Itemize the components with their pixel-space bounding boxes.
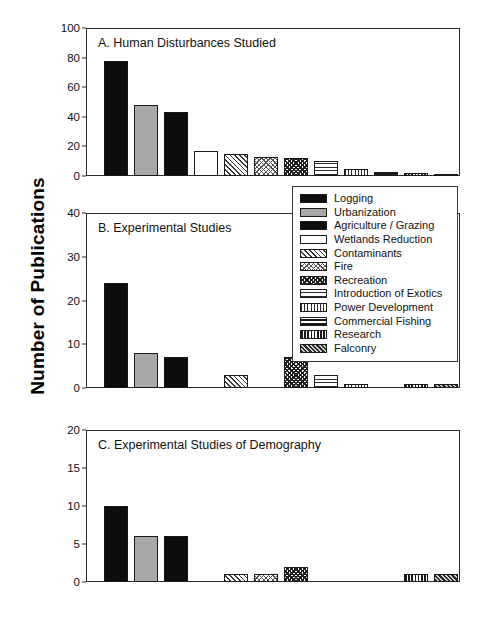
legend-swatch-icon <box>300 303 327 312</box>
legend-item: Falconry <box>300 342 451 356</box>
bar-agriculture-grazing <box>164 112 188 176</box>
bar-falconry <box>434 384 458 388</box>
bar-agriculture-grazing <box>164 357 188 388</box>
bar-introduction-of-exotics <box>314 161 338 176</box>
bar-contaminants <box>224 154 248 176</box>
legend-item: Agriculture / Grazing <box>300 219 451 233</box>
legend-swatch-icon <box>300 330 327 339</box>
legend-item: Power Development <box>300 301 451 315</box>
legend-item-label: Contaminants <box>334 248 402 259</box>
panel-a-bars <box>86 28 460 176</box>
legend-swatch-icon <box>300 208 327 217</box>
legend-item-label: Wetlands Reduction <box>334 234 432 245</box>
legend-item: Introduction of Exotics <box>300 287 451 301</box>
legend-swatch-icon <box>300 249 327 258</box>
bar-commercial-fishing <box>374 172 398 176</box>
bar-contaminants <box>224 574 248 582</box>
legend-item: Fire <box>300 260 451 274</box>
bar-falconry <box>434 174 458 177</box>
legend-item: Urbanization <box>300 206 451 220</box>
y-axis-title: Number of Publications <box>27 156 49 416</box>
legend-item-label: Commercial Fishing <box>334 316 431 327</box>
legend-item-label: Logging <box>334 193 373 204</box>
bar-logging <box>104 283 128 388</box>
legend: LoggingUrbanizationAgriculture / Grazing… <box>292 186 458 362</box>
bar-urbanization <box>134 353 158 388</box>
bar-recreation <box>284 158 308 176</box>
bar-fire <box>254 574 278 582</box>
bar-research <box>404 574 428 582</box>
legend-swatch-icon <box>300 235 327 244</box>
legend-item: Contaminants <box>300 246 451 260</box>
legend-item: Wetlands Reduction <box>300 233 451 247</box>
bar-recreation <box>284 567 308 582</box>
legend-swatch-icon <box>300 221 327 230</box>
bar-research <box>404 173 428 176</box>
legend-swatch-icon <box>300 194 327 203</box>
legend-item: Commercial Fishing <box>300 314 451 328</box>
panel-c-bars <box>86 430 460 582</box>
bar-urbanization <box>134 105 158 176</box>
legend-item-label: Agriculture / Grazing <box>334 220 434 231</box>
legend-item-label: Research <box>334 329 381 340</box>
bar-introduction-of-exotics <box>314 375 338 388</box>
bar-power-development <box>344 384 368 388</box>
legend-item-label: Fire <box>334 261 353 272</box>
panel-a: A. Human Disturbances Studied 0204060801… <box>86 28 460 176</box>
legend-item: Research <box>300 328 451 342</box>
legend-swatch-icon <box>300 262 327 271</box>
legend-swatch-icon <box>300 276 327 285</box>
legend-swatch-icon <box>300 289 327 298</box>
bar-fire <box>254 157 278 176</box>
bar-logging <box>104 506 128 582</box>
legend-item: Logging <box>300 192 451 206</box>
bar-wetlands-reduction <box>194 151 218 176</box>
legend-item-label: Power Development <box>334 302 433 313</box>
legend-item: Recreation <box>300 274 451 288</box>
bar-power-development <box>344 169 368 176</box>
bar-falconry <box>434 574 458 582</box>
bar-research <box>404 384 428 388</box>
bar-contaminants <box>224 375 248 388</box>
legend-item-label: Urbanization <box>334 207 396 218</box>
bar-logging <box>104 61 128 176</box>
legend-item-label: Introduction of Exotics <box>334 288 442 299</box>
legend-item-label: Recreation <box>334 275 387 286</box>
bar-agriculture-grazing <box>164 536 188 582</box>
panel-c: C. Experimental Studies of Demography 05… <box>86 430 460 582</box>
legend-swatch-icon <box>300 344 327 353</box>
figure: Number of Publications A. Human Disturba… <box>0 0 478 625</box>
bar-urbanization <box>134 536 158 582</box>
legend-item-label: Falconry <box>334 343 376 354</box>
legend-swatch-icon <box>300 317 327 326</box>
